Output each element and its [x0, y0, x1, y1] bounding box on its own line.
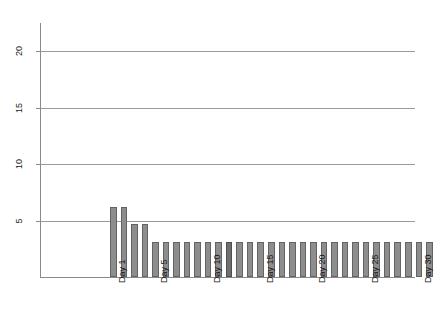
bar-day-22[interactable] — [331, 242, 338, 277]
bar-day-7[interactable] — [173, 242, 180, 277]
bar-day-9[interactable] — [194, 242, 201, 277]
y-axis-label-10: 10 — [13, 153, 25, 175]
bar-day-17[interactable] — [279, 242, 286, 277]
bar-day-5[interactable] — [152, 242, 159, 277]
y-axis-label-15: 15 — [13, 97, 25, 119]
bar-chart: 5101520 Day 1Day 5Day 10Day 15Day 20Day … — [0, 0, 443, 334]
bar-day-29[interactable] — [405, 242, 412, 277]
bar-day-20[interactable] — [310, 242, 317, 277]
plot-area — [41, 23, 415, 277]
bar-day-28[interactable] — [394, 242, 401, 277]
x-axis-label-day-1: Day 1 — [117, 259, 127, 283]
bar-day-19[interactable] — [300, 242, 307, 277]
x-axis-line — [40, 277, 415, 278]
x-axis-label-day-30: Day 30 — [423, 254, 433, 283]
bar-day-25[interactable] — [363, 242, 370, 277]
bar-day-4[interactable] — [142, 224, 149, 277]
x-axis-label-day-20: Day 20 — [317, 254, 327, 283]
bar-day-27[interactable] — [384, 242, 391, 277]
bar-day-14[interactable] — [247, 242, 254, 277]
bar-day-13[interactable] — [236, 242, 243, 277]
bar-day-8[interactable] — [184, 242, 191, 277]
x-axis-label-day-10: Day 10 — [212, 254, 222, 283]
bar-day-12[interactable] — [226, 242, 233, 277]
x-axis-label-day-15: Day 15 — [265, 254, 275, 283]
x-axis-label-day-5: Day 5 — [159, 259, 169, 283]
bar-day-1[interactable] — [110, 207, 117, 277]
bar-day-10[interactable] — [205, 242, 212, 277]
bar-day-18[interactable] — [289, 242, 296, 277]
y-axis-label-5: 5 — [13, 210, 25, 232]
bar-day-23[interactable] — [342, 242, 349, 277]
x-axis-label-day-25: Day 25 — [370, 254, 380, 283]
bar-day-3[interactable] — [131, 224, 138, 277]
bar-day-24[interactable] — [352, 242, 359, 277]
y-axis-label-20: 20 — [13, 40, 25, 62]
bar-day-15[interactable] — [257, 242, 264, 277]
bar-day-30[interactable] — [416, 242, 423, 277]
